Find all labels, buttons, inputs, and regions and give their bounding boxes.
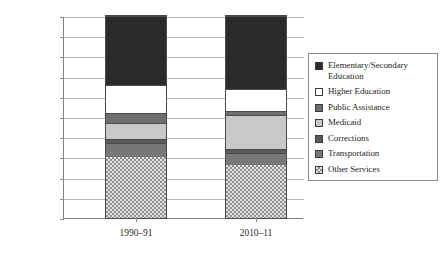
stacked-bar-chart: 0%10%20%30%40%50%60%70%80%90%100%1990–91…: [0, 0, 442, 259]
bar-1990–91[interactable]: [106, 16, 166, 218]
y-axis-tick: [60, 118, 64, 119]
legend-item[interactable]: Other Services: [315, 164, 432, 175]
legend-swatch-icon: [315, 119, 323, 127]
x-axis-label-1990–91: 1990–91: [120, 228, 153, 238]
legend-swatch-icon: [315, 88, 323, 96]
bar-segment-other-services[interactable]: [106, 157, 166, 218]
plot-area: 0%10%20%30%40%50%60%70%80%90%100%1990–91…: [63, 17, 303, 219]
legend-swatch-icon: [315, 135, 323, 143]
legend-swatch-icon: [315, 166, 323, 174]
legend-item-label: Public Assistance: [328, 102, 390, 113]
bar-segment-transportation[interactable]: [226, 153, 286, 165]
bar-segment-corrections[interactable]: [226, 149, 286, 153]
legend-item-label: Transportation: [328, 148, 379, 159]
bar-segment-medicaid[interactable]: [226, 115, 286, 149]
bar-segment-public-assistance[interactable]: [226, 111, 286, 115]
legend-swatch-icon: [315, 62, 323, 70]
legend-item-label: Other Services: [328, 164, 380, 175]
x-axis-tick: [136, 218, 137, 222]
legend-item[interactable]: Corrections: [315, 133, 432, 144]
legend-item[interactable]: Elementary/Secondary Education: [315, 60, 432, 81]
legend-item-label: Medicaid: [328, 117, 361, 128]
y-axis-tick: [60, 78, 64, 79]
legend-item[interactable]: Higher Education: [315, 86, 432, 97]
legend-item[interactable]: Public Assistance: [315, 102, 432, 113]
bar-segment-public-assistance[interactable]: [106, 113, 166, 123]
y-axis-tick: [60, 219, 64, 220]
bar-segment-transportation[interactable]: [106, 143, 166, 157]
y-axis-tick: [60, 158, 64, 159]
bar-segment-higher-education[interactable]: [226, 89, 286, 111]
legend-swatch-icon: [315, 150, 323, 158]
y-axis-tick: [60, 199, 64, 200]
y-axis-tick: [60, 98, 64, 99]
bar-segment-elementary-secondary-education[interactable]: [106, 16, 166, 85]
x-axis-label-2010–11: 2010–11: [240, 228, 272, 238]
bar-segment-higher-education[interactable]: [106, 85, 166, 113]
legend-swatch-icon: [315, 104, 323, 112]
x-axis-tick: [256, 218, 257, 222]
y-axis-tick: [60, 17, 64, 18]
legend-item-label: Corrections: [328, 133, 369, 144]
bar-segment-elementary-secondary-education[interactable]: [226, 16, 286, 89]
bar-segment-other-services[interactable]: [226, 165, 286, 218]
chart-legend: Elementary/Secondary EducationHigher Edu…: [308, 53, 438, 181]
legend-item[interactable]: Medicaid: [315, 117, 432, 128]
legend-item[interactable]: Transportation: [315, 148, 432, 159]
y-axis-tick: [60, 179, 64, 180]
bar-2010–11[interactable]: [226, 16, 286, 218]
y-axis-tick: [60, 57, 64, 58]
y-axis-tick: [60, 138, 64, 139]
bar-segment-medicaid[interactable]: [106, 123, 166, 139]
legend-item-label: Higher Education: [328, 86, 390, 97]
bar-segment-corrections[interactable]: [106, 139, 166, 143]
y-axis-tick: [60, 37, 64, 38]
legend-item-label: Elementary/Secondary Education: [328, 60, 432, 81]
